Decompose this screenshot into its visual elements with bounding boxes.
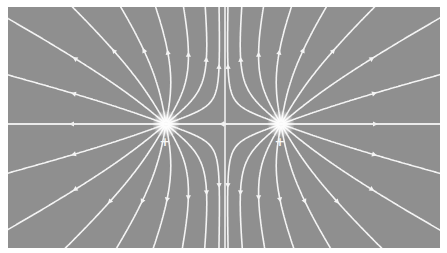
charge-left-label: +: [160, 134, 171, 149]
field-background: [8, 7, 440, 248]
field-line-diagram: + +: [0, 0, 447, 253]
charge-right-label: +: [275, 134, 286, 149]
